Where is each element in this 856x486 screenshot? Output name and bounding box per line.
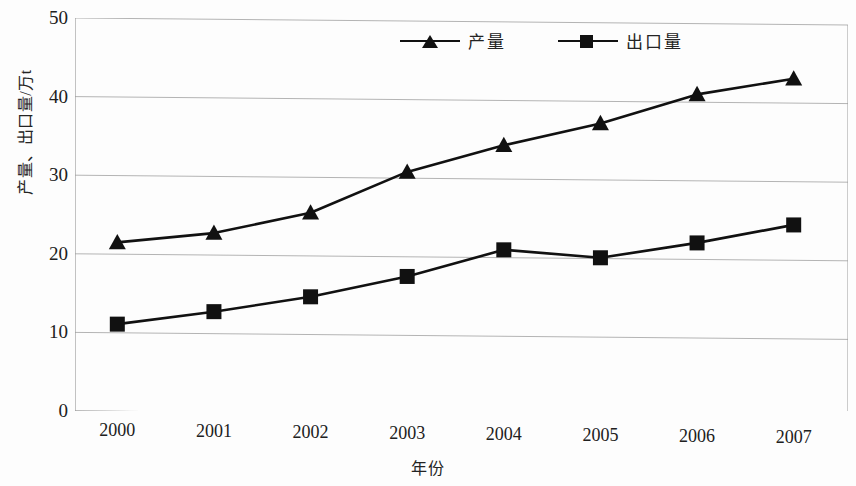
triangle-marker-icon (422, 35, 438, 48)
legend-entry[interactable]: 出口量 (558, 28, 683, 53)
x-tick-label: 2002 (293, 422, 329, 443)
triangle-marker-icon (400, 33, 460, 49)
y-tick-label: 40 (12, 86, 68, 108)
x-axis-tick-labels: 20002001200220032004200520062007 (75, 418, 848, 448)
y-tick-label: 0 (12, 400, 68, 422)
gridline (75, 254, 848, 261)
y-tick-label: 30 (12, 164, 68, 186)
x-tick-label: 2007 (776, 427, 812, 448)
plot-area (75, 18, 848, 411)
gridline (75, 332, 848, 339)
data-point-marker (110, 317, 125, 332)
axis-tick-marks (75, 18, 848, 411)
chart-legend: 产量出口量 (400, 28, 683, 53)
y-axis-tick-labels: 01020304050 (0, 0, 68, 486)
data-point-marker (786, 217, 801, 232)
data-point-marker (302, 204, 319, 219)
square-marker-icon (580, 35, 593, 48)
square-marker-icon (558, 33, 618, 49)
data-point-marker (785, 70, 802, 85)
data-point-marker (400, 269, 415, 284)
x-tick-label: 2003 (389, 423, 425, 444)
x-axis-title: 年份 (0, 455, 856, 479)
y-tick-label: 50 (12, 7, 68, 29)
legend-entry[interactable]: 产量 (400, 28, 506, 53)
gridlines (75, 18, 848, 411)
x-tick-label: 2001 (196, 421, 232, 442)
x-tick-label: 2006 (679, 426, 715, 447)
line-chart: 产量、出口量/万t 01020304050 200020012002200320… (0, 0, 856, 486)
legend-label: 产量 (468, 28, 506, 53)
data-series (109, 70, 802, 249)
x-tick-label: 2000 (99, 420, 135, 441)
data-point-marker (593, 250, 608, 265)
legend-label: 出口量 (626, 28, 683, 53)
x-tick-label: 2004 (486, 424, 522, 445)
data-series-group (109, 70, 802, 331)
plot-svg (75, 18, 848, 411)
x-tick-label: 2005 (582, 425, 618, 446)
y-tick-label: 20 (12, 243, 68, 265)
data-point-marker (690, 235, 705, 250)
gridline (75, 18, 848, 25)
y-tick-label: 10 (12, 321, 68, 343)
data-point-marker (303, 289, 318, 304)
series-line (117, 79, 793, 243)
plot-frame (75, 18, 848, 411)
gridline (75, 97, 848, 104)
data-point-marker (496, 242, 511, 257)
gridline (75, 175, 848, 182)
data-point-marker (206, 304, 221, 319)
